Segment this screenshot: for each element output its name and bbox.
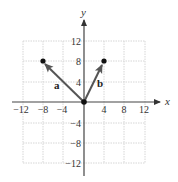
svg-text:−8: −8 xyxy=(70,138,81,149)
vector-a-label: a xyxy=(54,79,60,91)
svg-text:12: 12 xyxy=(139,104,149,115)
y-axis-label: y xyxy=(80,6,86,18)
svg-text:−12: −12 xyxy=(13,104,29,115)
svg-text:−12: −12 xyxy=(65,158,81,169)
svg-text:−4: −4 xyxy=(57,104,68,115)
svg-text:8: 8 xyxy=(76,56,81,67)
svg-text:4: 4 xyxy=(76,77,81,88)
x-axis-label: x xyxy=(164,95,170,107)
vector-b-label: b xyxy=(97,77,103,89)
svg-text:−4: −4 xyxy=(70,118,81,129)
point-a-endpoint xyxy=(40,58,45,63)
origin-point xyxy=(81,99,87,105)
coordinate-plane: x y −12 −8 −4 4 8 12 12 8 4 −4 −8 −12 a … xyxy=(0,0,178,182)
svg-text:12: 12 xyxy=(71,36,81,47)
svg-text:8: 8 xyxy=(122,104,127,115)
x-tick-labels: −12 −8 −4 4 8 12 xyxy=(13,104,149,115)
svg-text:4: 4 xyxy=(102,104,107,115)
point-b-endpoint xyxy=(101,58,106,63)
svg-text:−8: −8 xyxy=(38,104,49,115)
